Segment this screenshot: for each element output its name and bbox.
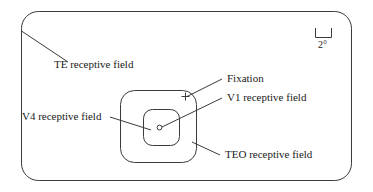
scale-bar-bracket-icon [316, 28, 332, 38]
label-v4-receptive-field: V4 receptive field [22, 111, 101, 122]
scale-bar-label: 2° [318, 40, 327, 50]
teo-receptive-field-boundary [121, 91, 197, 163]
fixation-leader-line [187, 79, 222, 97]
fixation-cross-icon [182, 93, 190, 101]
diagram-canvas [0, 0, 373, 192]
v1-receptive-field-marker [157, 125, 162, 130]
label-fixation: Fixation [227, 73, 264, 84]
receptive-field-diagram: 2° TE receptive field V4 receptive field… [0, 0, 373, 192]
v4-leader-line [110, 117, 151, 130]
label-v1-receptive-field: V1 receptive field [227, 92, 306, 103]
label-te-receptive-field: TE receptive field [54, 59, 133, 70]
v1-leader-line [162, 98, 222, 127]
label-teo-receptive-field: TEO receptive field [225, 149, 312, 160]
